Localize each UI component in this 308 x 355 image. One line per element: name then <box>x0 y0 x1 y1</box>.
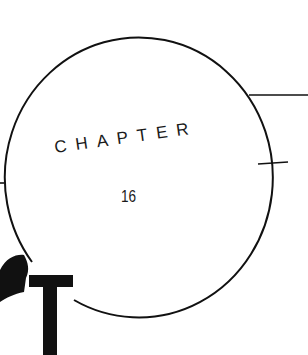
chapter-ornament <box>0 0 308 355</box>
figure-silhouette <box>0 255 28 302</box>
right-tick <box>258 162 288 164</box>
drop-cap-t <box>29 275 73 355</box>
chapter-number: 16 <box>121 187 136 207</box>
